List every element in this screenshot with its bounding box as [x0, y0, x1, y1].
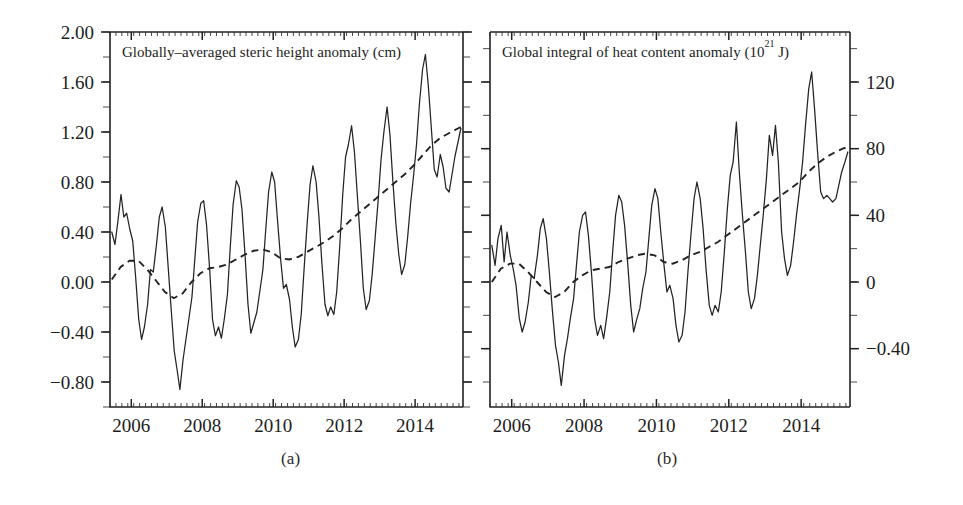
panel-b-ytick-label: 40 — [866, 205, 885, 226]
panel-a-xtick-label: 2010 — [254, 415, 292, 436]
panel-a-ticks — [101, 32, 472, 407]
panel-b-caption: (b) — [657, 449, 677, 469]
panel-a-xtick-label: 2008 — [183, 415, 221, 436]
panel-a-ytick-label: 2.00 — [61, 22, 94, 43]
panel-b-xtick-label: 2010 — [637, 415, 675, 436]
panel-b-xtick-label: 2014 — [782, 415, 821, 436]
panel-b-trend-line — [492, 147, 848, 297]
panel-b-ytick-label: −0.40 — [866, 338, 910, 359]
panel-a-xtick-label: 2014 — [396, 415, 435, 436]
panel-a-data-line — [112, 55, 461, 390]
two-panel-timeseries-chart: 200620082010201220142.001.601.200.800.40… — [0, 0, 963, 505]
panel-a-xtick-label: 2012 — [325, 415, 363, 436]
panel-b-xtick-label: 2008 — [565, 415, 603, 436]
panel-b-ticks — [481, 32, 859, 407]
panel-a-ytick-label: 1.60 — [61, 72, 94, 93]
panel-b-ytick-label: 80 — [866, 138, 885, 159]
panel-a: 200620082010201220142.001.601.200.800.40… — [50, 22, 472, 437]
figure-container: 200620082010201220142.001.601.200.800.40… — [0, 0, 963, 505]
panel-a-ytick-label: 0.00 — [61, 272, 94, 293]
panel-b-title: Global integral of heat content anomaly … — [502, 38, 789, 62]
panel-a-xtick-label: 2006 — [112, 415, 150, 436]
panel-a-ytick-label: 1.20 — [61, 122, 94, 143]
panel-b-xtick-label: 2012 — [710, 415, 748, 436]
panel-b-ytick-label: 120 — [866, 72, 895, 93]
panel-a-ytick-label: −0.40 — [50, 322, 94, 343]
panel-b-ytick-label: 0 — [866, 272, 876, 293]
panel-a-title: Globally–averaged steric height anomaly … — [122, 44, 401, 61]
panel-b: 2006200820102012201412080400−0.40 Global… — [481, 32, 910, 436]
panel-a-ytick-label: 0.80 — [61, 172, 94, 193]
panel-b-xtick-label: 2006 — [493, 415, 531, 436]
panel-b-tick-labels: 2006200820102012201412080400−0.40 — [493, 72, 910, 437]
panel-a-trend-line — [112, 127, 461, 298]
panel-a-axes — [110, 32, 463, 407]
panel-a-tick-labels: 200620082010201220142.001.601.200.800.40… — [50, 22, 435, 437]
panel-b-data-line — [492, 72, 848, 385]
panel-a-caption: (a) — [281, 449, 300, 469]
panel-a-ytick-label: 0.40 — [61, 222, 94, 243]
panel-a-ytick-label: −0.80 — [50, 372, 94, 393]
